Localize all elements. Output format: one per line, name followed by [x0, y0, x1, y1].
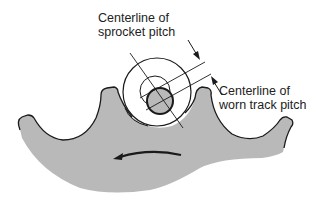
track-pitch-label-line2: worn track pitch: [219, 98, 307, 112]
sprocket-pitch-label-line1: Centerline of: [98, 11, 175, 25]
sprocket-pitch-label-line2: sprocket pitch: [98, 25, 175, 39]
sprocket-pitch-arrowhead-icon: [193, 51, 200, 60]
track-pitch-label-line1: Centerline of: [219, 84, 307, 98]
track-pitch-label: Centerline of worn track pitch: [219, 84, 307, 112]
sprocket-pitch-label: Centerline of sprocket pitch: [98, 11, 175, 39]
track-pitch-arrowhead-icon: [211, 76, 218, 85]
